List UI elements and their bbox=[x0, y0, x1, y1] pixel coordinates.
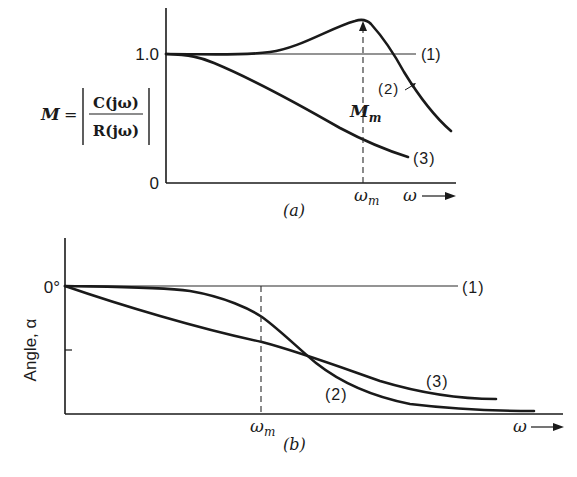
panel-a-label-2: (2) bbox=[378, 80, 399, 97]
panel-a-curve-3 bbox=[166, 54, 408, 157]
panel-a-caption: (a) bbox=[283, 201, 305, 220]
panel-a-label-3: (3) bbox=[413, 150, 436, 167]
panel-b-x-axis-label: ω bbox=[513, 416, 527, 436]
panel-a-x-axis-label: ω bbox=[403, 185, 417, 205]
panel-b-tick-zero: 0° bbox=[44, 278, 60, 297]
fraction-denominator: R(jω) bbox=[93, 122, 139, 140]
panel-b-omega-m-tick: ωm bbox=[250, 416, 275, 439]
panel-b-y-label: Angle, α bbox=[21, 318, 40, 381]
panel-b-label-2: (2) bbox=[325, 386, 348, 403]
panel-a-magnitude: 1.0 0 M = C(jω) R(jω) (1) (2) (3) Mm ωm bbox=[40, 8, 456, 220]
panel-b-label-3: (3) bbox=[426, 373, 449, 390]
fraction-numerator: C(jω) bbox=[93, 94, 139, 112]
magnitude-symbol: M bbox=[40, 104, 61, 124]
equals-sign: = bbox=[64, 105, 77, 124]
frequency-response-figure: 1.0 0 M = C(jω) R(jω) (1) (2) (3) Mm ωm bbox=[0, 0, 577, 477]
panel-b-label-1: (1) bbox=[462, 279, 485, 296]
panel-b-curve-2 bbox=[65, 286, 534, 411]
peak-magnitude-label: Mm bbox=[349, 101, 382, 125]
panel-a-y-label: M = C(jω) R(jω) bbox=[40, 88, 149, 145]
panel-b-caption: (b) bbox=[283, 435, 306, 454]
panel-a-omega-m-tick: ωm bbox=[354, 185, 379, 208]
panel-b-phase: 0° Angle, α (1) (2) (3) ωm ω (b) bbox=[21, 238, 564, 454]
panel-a-curve-2 bbox=[166, 20, 451, 131]
panel-b-x-arrow-icon bbox=[553, 423, 564, 431]
peak-arrowhead-icon bbox=[359, 21, 367, 31]
panel-a-x-arrow-icon bbox=[445, 192, 456, 200]
panel-a-label-1: (1) bbox=[421, 46, 441, 63]
panel-a-tick-zero: 0 bbox=[150, 174, 159, 193]
panel-a-tick-one: 1.0 bbox=[135, 45, 159, 64]
